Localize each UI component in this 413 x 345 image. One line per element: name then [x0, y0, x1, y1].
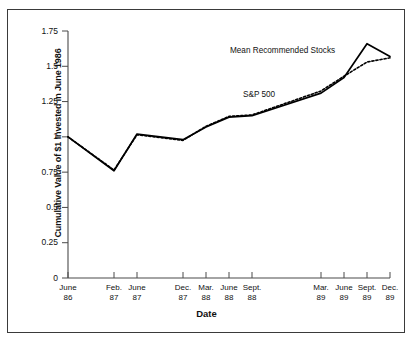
data-series-group: [68, 44, 390, 171]
series-label-s-p-500: S&P 500: [243, 90, 275, 99]
y-tick-label: 1.75: [18, 26, 58, 36]
x-axis-title: Date: [0, 308, 413, 319]
y-tick-label: 0.75: [18, 167, 58, 177]
x-tick-label-month: Sept.: [230, 283, 274, 293]
y-tick-label: 1.25: [18, 96, 58, 106]
chart-figure: Cumulative Value of $1 Invested in June …: [0, 0, 413, 345]
x-tick-label: Sept.88: [230, 283, 274, 303]
x-tick-label-month: June: [46, 283, 90, 293]
x-tick-label-year: 89: [368, 293, 412, 303]
x-tick-label-year: 87: [115, 293, 159, 303]
x-tick-label-month: Dec.: [368, 283, 412, 293]
y-tick-label: 0: [18, 273, 58, 283]
y-tick-label: 1.5: [18, 61, 58, 71]
series-line-s-p-500: [68, 58, 390, 170]
series-line-mean-recommended-stocks: [68, 44, 390, 171]
x-tick-label: June87: [115, 283, 159, 303]
x-tick-label-month: June: [115, 283, 159, 293]
x-tick-label-year: 88: [230, 293, 274, 303]
axis-lines: [68, 31, 390, 278]
x-axis-ticks: [68, 272, 390, 278]
x-tick-label: Dec.89: [368, 283, 412, 303]
y-tick-label: 1: [18, 131, 58, 141]
y-tick-label: 0.5: [18, 202, 58, 212]
y-tick-label: 0.25: [18, 237, 58, 247]
series-label-mean-recommended-stocks: Mean Recommended Stocks: [230, 46, 335, 55]
x-tick-label: June86: [46, 283, 90, 303]
x-tick-label-year: 86: [46, 293, 90, 303]
